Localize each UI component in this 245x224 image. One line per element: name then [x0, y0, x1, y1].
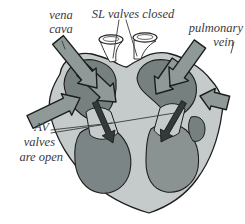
pulmonary-vein-label-line1: pulmonary: [178, 21, 243, 35]
vena-cava-label: vena cava: [40, 8, 82, 36]
av-valves-label-line3: are open: [0, 150, 63, 164]
valve-pocket: [189, 117, 205, 142]
heart-diagram: vena cava SL valves closed pulmonary vei…: [0, 0, 245, 224]
vena-cava-label-line1: vena: [40, 8, 82, 22]
vena-cava-label-line2: cava: [40, 22, 82, 36]
pulmonary-vein-label-line2: vein: [178, 35, 234, 49]
av-valves-label-line1: AV: [0, 120, 49, 134]
av-valves-label-line2: valves: [0, 135, 55, 149]
sl-valves-label: SL valves closed: [85, 7, 181, 21]
